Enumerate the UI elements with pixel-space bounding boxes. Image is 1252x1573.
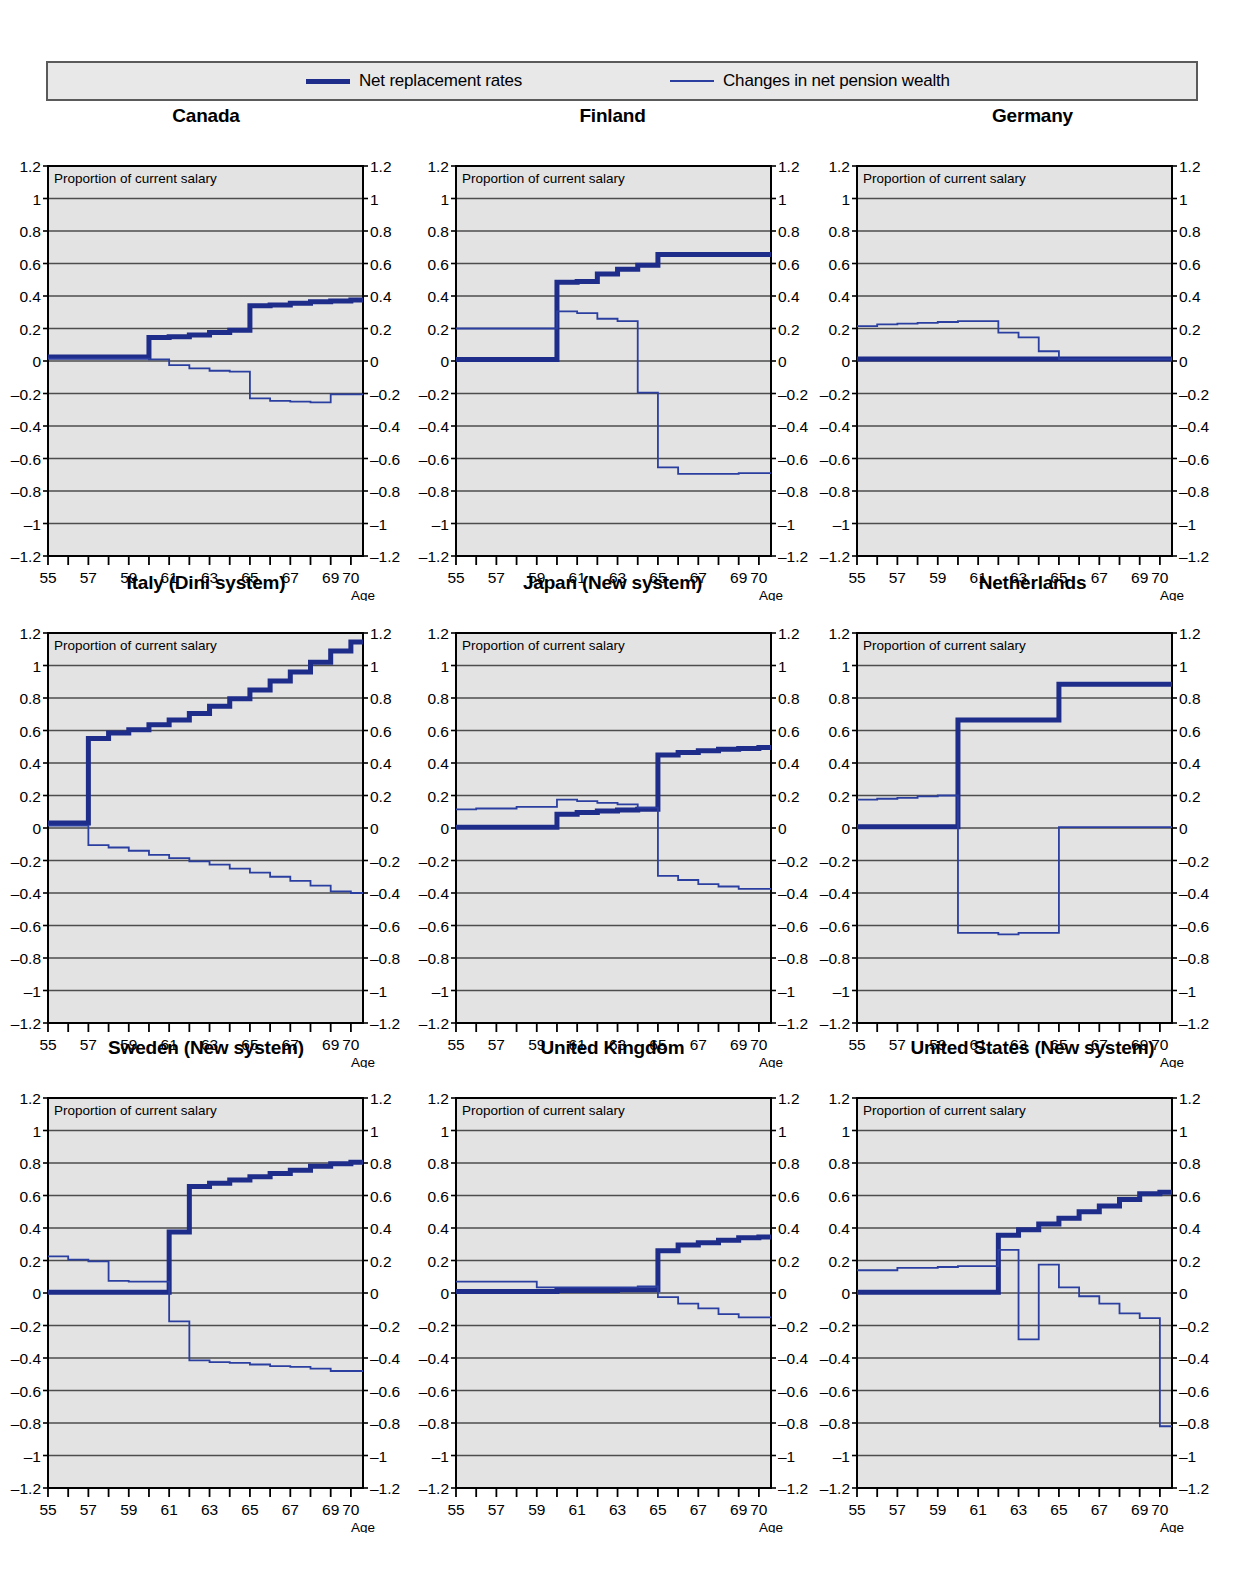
y-tick-label-right: –1: [778, 983, 795, 1000]
y-tick-label-left: –0.2: [419, 1318, 449, 1335]
y-tick-label-left: –0.8: [11, 483, 41, 500]
x-tick-label: 59: [120, 1501, 137, 1518]
panel-title: United Kingdom: [412, 1037, 813, 1059]
y-tick-label-left: –0.4: [11, 418, 42, 435]
legend-label: Changes in net pension wealth: [723, 71, 950, 91]
y-tick-label-right: 0.6: [1179, 723, 1201, 740]
y-tick-label-right: –1.2: [370, 1480, 400, 1497]
y-tick-label-right: –0.8: [370, 483, 400, 500]
y-tick-label-left: –1: [833, 983, 850, 1000]
y-tick-label-right: –1: [1179, 983, 1196, 1000]
y-tick-label-right: –1: [370, 516, 387, 533]
y-tick-label-left: 0.4: [19, 755, 41, 772]
y-tick-label-right: –0.6: [1179, 1383, 1209, 1400]
y-tick-label-right: 1.2: [778, 1090, 800, 1107]
y-tick-label-right: –0.2: [370, 1318, 400, 1335]
y-tick-label-right: –0.4: [778, 885, 809, 902]
y-tick-label-right: 1.2: [370, 158, 392, 175]
y-tick-label-right: –0.4: [370, 1350, 401, 1367]
y-tick-label-left: 0.6: [19, 1188, 41, 1205]
y-tick-label-left: –0.6: [419, 1383, 449, 1400]
y-tick-label-left: –1.2: [419, 1015, 449, 1032]
y-tick-label-right: –0.8: [370, 1415, 400, 1432]
figure-root: Net replacement rates Changes in net pen…: [0, 0, 1252, 1573]
y-tick-label-left: –0.8: [11, 950, 41, 967]
chart-panel-finland: Finland1.21.2110.80.80.60.60.40.40.20.20…: [412, 103, 813, 570]
y-tick-label-left: 0: [32, 820, 41, 837]
y-tick-label-left: 0: [841, 1285, 850, 1302]
y-tick-label-right: 0.6: [370, 723, 392, 740]
y-tick-label-right: –1: [370, 1448, 387, 1465]
y-tick-label-right: 1: [370, 658, 379, 675]
y-tick-label-left: –0.4: [11, 1350, 42, 1367]
chart-legend: Net replacement rates Changes in net pen…: [46, 61, 1198, 101]
y-tick-label-right: –0.4: [778, 418, 809, 435]
panel-title: Netherlands: [813, 572, 1252, 594]
y-tick-label-left: –1.2: [11, 548, 41, 565]
panel-title: Sweden (New system): [0, 1037, 412, 1059]
panel-plot: 1.21.2110.80.80.60.60.40.40.20.200–0.2–0…: [813, 131, 1252, 601]
y-tick-label-right: 0: [370, 353, 379, 370]
y-tick-label-left: 0.2: [19, 321, 41, 338]
y-tick-label-left: 1: [841, 658, 850, 675]
y-tick-label-right: –0.4: [370, 885, 401, 902]
x-tick-label: 55: [447, 1501, 464, 1518]
x-tick-label: 63: [201, 1501, 218, 1518]
y-tick-label-left: 0.6: [828, 256, 850, 273]
x-tick-label: 55: [39, 1501, 56, 1518]
y-tick-label-right: –0.6: [778, 451, 808, 468]
y-tick-label-left: 0.8: [828, 1155, 850, 1172]
y-tick-label-left: –1.2: [820, 548, 850, 565]
y-tick-label-right: –0.8: [778, 950, 808, 967]
y-tick-label-right: 1: [370, 1123, 379, 1140]
y-tick-label-left: –0.6: [820, 1383, 850, 1400]
y-tick-label-left: 0.2: [427, 1253, 449, 1270]
y-tick-label-left: 0: [841, 353, 850, 370]
x-tick-label: 65: [1050, 1501, 1067, 1518]
x-tick-label: 70: [342, 1501, 360, 1518]
chart-panel-germany: Germany1.21.2110.80.80.60.60.40.40.20.20…: [813, 103, 1252, 570]
x-tick-label: 67: [1091, 1501, 1108, 1518]
y-tick-label-right: 0.6: [778, 1188, 800, 1205]
y-tick-label-left: 0.4: [19, 1220, 41, 1237]
y-tick-label-left: 1: [440, 658, 449, 675]
y-tick-label-right: 0.6: [778, 256, 800, 273]
legend-entry-changes-in-net-pension-wealth: Changes in net pension wealth: [670, 71, 950, 91]
y-tick-label-right: 0.4: [370, 1220, 392, 1237]
y-tick-label-right: –1.2: [1179, 1015, 1209, 1032]
y-tick-label-left: –0.2: [11, 386, 41, 403]
y-tick-label-left: –0.2: [820, 853, 850, 870]
y-tick-label-left: 1.2: [828, 158, 850, 175]
x-tick-label: 69: [730, 1501, 747, 1518]
y-tick-label-right: 0.2: [370, 321, 392, 338]
y-tick-label-left: 0.8: [19, 690, 41, 707]
y-tick-label-left: 1.2: [19, 158, 41, 175]
y-tick-label-right: 0.2: [1179, 788, 1201, 805]
y-tick-label-right: –0.4: [1179, 418, 1210, 435]
chart-panel-italy-dini-system: Italy (Dini system)1.21.2110.80.80.60.60…: [0, 570, 412, 1035]
y-tick-label-left: 1.2: [427, 1090, 449, 1107]
y-tick-label-right: –0.6: [1179, 451, 1209, 468]
plot-inline-note: Proportion of current salary: [462, 171, 625, 186]
y-tick-label-right: –0.6: [778, 1383, 808, 1400]
y-tick-label-left: 0: [841, 820, 850, 837]
y-tick-label-right: 1.2: [370, 1090, 392, 1107]
y-tick-label-right: 0.8: [370, 223, 392, 240]
y-tick-label-left: –0.2: [11, 853, 41, 870]
y-tick-label-right: –0.2: [778, 1318, 808, 1335]
x-tick-label: 63: [1010, 1501, 1027, 1518]
x-tick-label: 69: [1131, 1501, 1148, 1518]
y-tick-label-right: 0: [778, 1285, 787, 1302]
plot-inline-note: Proportion of current salary: [54, 638, 217, 653]
y-tick-label-right: 0.2: [778, 321, 800, 338]
y-tick-label-left: 0: [32, 1285, 41, 1302]
panel-plot: 1.21.2110.80.80.60.60.40.40.20.200–0.2–0…: [0, 131, 412, 601]
y-tick-label-right: 0.4: [778, 755, 800, 772]
y-tick-label-right: 0.8: [778, 1155, 800, 1172]
x-tick-label: 70: [750, 1501, 768, 1518]
y-tick-label-right: 1: [778, 1123, 787, 1140]
y-tick-label-right: –0.8: [1179, 950, 1209, 967]
y-tick-label-left: –0.6: [11, 451, 41, 468]
panel-title: Finland: [412, 105, 813, 127]
y-tick-label-right: –0.8: [370, 950, 400, 967]
